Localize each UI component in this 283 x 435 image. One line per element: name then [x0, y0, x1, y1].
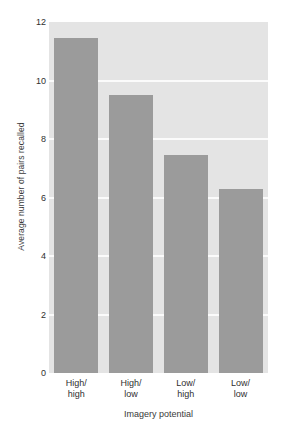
x-axis-tick-label-line: Low/	[176, 378, 195, 388]
bars-group	[49, 22, 268, 373]
x-axis-tick-label-line: High/	[66, 378, 87, 388]
y-axis-tick-label: 4	[24, 252, 46, 261]
y-axis-tick-label: 2	[24, 310, 46, 319]
bar	[219, 189, 263, 373]
y-axis-tick-label: 6	[24, 193, 46, 202]
x-axis-title: Imagery potential	[49, 409, 268, 419]
y-axis-tick-label: 0	[24, 369, 46, 378]
x-axis-tick-label: Low/low	[213, 378, 268, 400]
x-axis-tick-label-line: high	[49, 389, 104, 400]
bar	[164, 155, 208, 373]
x-axis-tick-label-line: Low/	[231, 378, 250, 388]
bar	[54, 38, 98, 373]
bar-chart-figure: Average number of pairs recalled 0246810…	[0, 0, 283, 435]
x-axis-tick-label-line: low	[104, 389, 159, 400]
x-axis-tick-label: High/low	[104, 378, 159, 400]
x-axis-tick-label: High/high	[49, 378, 104, 400]
y-axis-tick-label: 12	[24, 18, 46, 27]
x-axis-tick-label: Low/high	[159, 378, 214, 400]
plot-area	[49, 22, 268, 373]
x-axis-tick-labels: High/highHigh/lowLow/highLow/low	[49, 378, 268, 406]
x-axis-tick-label-line: High/	[121, 378, 142, 388]
y-axis-tick-labels: 024681012	[24, 22, 46, 373]
bar	[109, 95, 153, 373]
x-axis-tick-label-line: low	[213, 389, 268, 400]
x-axis-tick-label-line: high	[159, 389, 214, 400]
y-axis-tick-label: 8	[24, 135, 46, 144]
y-axis-tick-label: 10	[24, 76, 46, 85]
